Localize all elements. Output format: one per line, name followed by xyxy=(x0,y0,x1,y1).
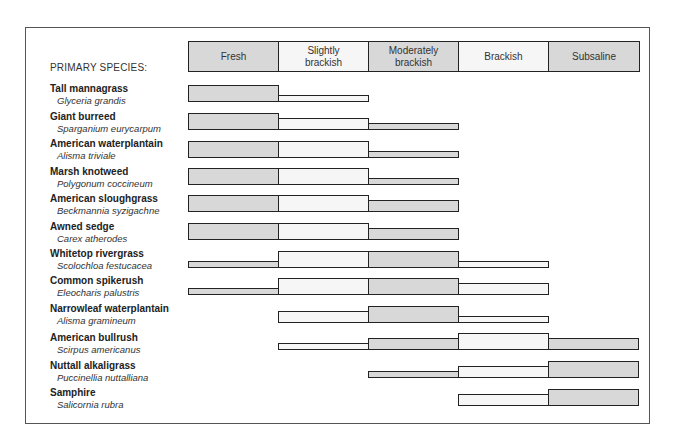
species-row: Common spikerushEleocharis palustris xyxy=(50,275,143,299)
abundance-bar xyxy=(458,283,549,295)
abundance-bar xyxy=(278,311,369,323)
abundance-bar xyxy=(458,333,549,350)
abundance-bar xyxy=(548,338,639,350)
abundance-bar xyxy=(188,223,279,240)
species-row: Narrowleaf waterplantainAlisma gramineum xyxy=(50,303,169,327)
abundance-bar xyxy=(278,95,369,102)
species-row: Awned sedgeCarex atherodes xyxy=(50,221,127,245)
column-slightly-brackish: Slightly brackish xyxy=(279,42,369,71)
abundance-bar xyxy=(188,168,279,185)
species-row: Tall mannagrassGlyceria grandis xyxy=(50,83,128,107)
common-name: Common spikerush xyxy=(50,275,143,287)
abundance-bar xyxy=(548,389,639,406)
abundance-bar xyxy=(368,228,459,240)
scientific-name: Salicornia rubra xyxy=(50,399,124,411)
common-name: Marsh knotweed xyxy=(50,166,153,178)
abundance-bar xyxy=(368,338,459,350)
abundance-bar xyxy=(188,288,279,295)
abundance-bar xyxy=(278,118,369,130)
common-name: American waterplantain xyxy=(50,138,163,150)
scientific-name: Carex atherodes xyxy=(50,233,127,245)
abundance-bar xyxy=(458,394,549,406)
scientific-name: Alisma gramineum xyxy=(50,315,169,327)
abundance-bar xyxy=(188,85,279,102)
abundance-bar xyxy=(368,371,459,378)
abundance-bar xyxy=(188,113,279,130)
abundance-bar xyxy=(368,178,459,185)
scientific-name: Beckmannia syzigachne xyxy=(50,205,159,217)
abundance-bar xyxy=(278,195,369,212)
common-name: Tall mannagrass xyxy=(50,83,128,95)
abundance-bar xyxy=(278,141,369,158)
column-brackish: Brackish xyxy=(459,42,549,71)
abundance-bar xyxy=(548,361,639,378)
abundance-bar xyxy=(368,306,459,323)
species-row: American waterplantainAlisma triviale xyxy=(50,138,163,162)
column-moderately-brackish: Moderately brackish xyxy=(369,42,459,71)
abundance-bar xyxy=(368,123,459,130)
scientific-name: Alisma triviale xyxy=(50,150,163,162)
abundance-bar xyxy=(188,261,279,268)
scientific-name: Eleocharis palustris xyxy=(50,287,143,299)
common-name: Samphire xyxy=(50,387,124,399)
abundance-bar xyxy=(278,223,369,240)
common-name: American bullrush xyxy=(50,332,140,344)
abundance-bar xyxy=(368,251,459,268)
primary-species-label: PRIMARY SPECIES: xyxy=(50,62,147,73)
scientific-name: Sparganium eurycarpum xyxy=(50,123,161,135)
species-row: Giant burreedSparganium eurycarpum xyxy=(50,111,161,135)
common-name: Whitetop rivergrass xyxy=(50,248,152,260)
scientific-name: Puccinellia nuttalliana xyxy=(50,372,148,384)
common-name: American sloughgrass xyxy=(50,193,159,205)
scientific-name: Scolochloa festucacea xyxy=(50,260,152,272)
abundance-bar xyxy=(368,151,459,158)
abundance-bar xyxy=(278,251,369,268)
abundance-bar xyxy=(368,200,459,212)
common-name: Nuttall alkaligrass xyxy=(50,360,148,372)
column-fresh: Fresh xyxy=(189,42,279,71)
species-row: Nuttall alkaligrassPuccinellia nuttallia… xyxy=(50,360,148,384)
common-name: Giant burreed xyxy=(50,111,161,123)
species-row: Whitetop rivergrassScolochloa festucacea xyxy=(50,248,152,272)
column-subsaline: Subsaline xyxy=(549,42,639,71)
abundance-bar xyxy=(278,168,369,185)
salinity-header: Fresh Slightly brackish Moderately brack… xyxy=(188,41,640,72)
common-name: Awned sedge xyxy=(50,221,127,233)
abundance-bar xyxy=(458,261,549,268)
species-row: SamphireSalicornia rubra xyxy=(50,387,124,411)
abundance-bar xyxy=(368,278,459,295)
species-row: American sloughgrassBeckmannia syzigachn… xyxy=(50,193,159,217)
abundance-bar xyxy=(278,343,369,350)
scientific-name: Scirpus americanus xyxy=(50,344,140,356)
species-row: American bullrushScirpus americanus xyxy=(50,332,140,356)
common-name: Narrowleaf waterplantain xyxy=(50,303,169,315)
abundance-bar xyxy=(188,141,279,158)
scientific-name: Glyceria grandis xyxy=(50,95,128,107)
scientific-name: Polygonum coccineum xyxy=(50,178,153,190)
abundance-bar xyxy=(188,195,279,212)
abundance-bar xyxy=(458,316,549,323)
abundance-bar xyxy=(458,366,549,378)
species-row: Marsh knotweedPolygonum coccineum xyxy=(50,166,153,190)
abundance-bar xyxy=(278,278,369,295)
